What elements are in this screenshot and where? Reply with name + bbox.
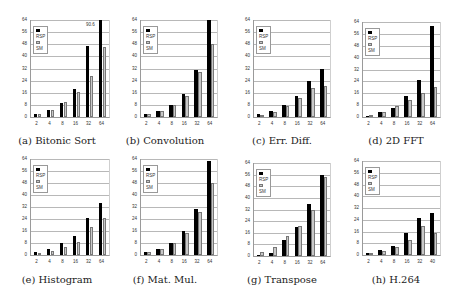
y-tick-label: 32 (236, 207, 250, 212)
legend-entry-sm: SM (36, 179, 45, 191)
gridline (31, 81, 109, 82)
sm-bar (160, 111, 164, 117)
gridline (254, 105, 330, 106)
gridline (363, 232, 440, 233)
y-tick-label: 48 (123, 41, 137, 46)
legend: RSPSM (365, 28, 380, 56)
gridline (363, 93, 440, 94)
legend-entry-rsp: RSP (368, 169, 377, 181)
x-tick-label: 2 (30, 121, 44, 126)
y-tick-label: 56 (123, 168, 137, 173)
sm-swatch-icon (36, 180, 40, 183)
sm-bar (211, 183, 215, 255)
y-tick-label: 48 (123, 180, 137, 185)
y-tick-label: 32 (13, 66, 27, 71)
sm-bar (185, 233, 189, 256)
y-tick-label: 40 (345, 55, 359, 60)
y-tick-label: 24 (13, 78, 27, 83)
y-tick-label: 0 (345, 114, 359, 119)
y-tick-label: 64 (236, 17, 250, 22)
chart-caption: (h) H.264 (336, 274, 456, 285)
y-tick-label: 48 (345, 182, 359, 187)
chart-caption: (b) Convolution (105, 135, 225, 146)
sm-bar (382, 251, 386, 255)
sm-bar (211, 44, 215, 117)
sm-bar (90, 76, 94, 117)
y-tick-label: 56 (123, 29, 137, 34)
y-tick-label: 48 (236, 183, 250, 188)
y-tick-label: 64 (123, 156, 137, 161)
legend: RSPSM (365, 167, 380, 195)
y-tick-label: 24 (345, 78, 359, 83)
sm-bar (147, 114, 151, 117)
legend-label-rsp: RSP (259, 34, 268, 39)
y-tick-label: 32 (123, 204, 137, 209)
sm-bar (185, 96, 189, 117)
sm-bar (395, 106, 399, 117)
chart-caption: (d) 2D FFT (336, 135, 456, 146)
sm-swatch-icon (36, 41, 40, 44)
sm-bar (103, 47, 107, 117)
gridline (363, 70, 440, 71)
sm-bar (260, 252, 264, 256)
sm-swatch-icon (259, 41, 263, 44)
sm-bar (298, 98, 302, 117)
gridline (31, 69, 109, 70)
legend-entry-rsp: RSP (368, 30, 377, 42)
gridline (363, 105, 440, 106)
x-tick-label: 64 (426, 121, 440, 126)
y-tick-label: 32 (345, 67, 359, 72)
legend-entry-sm: SM (259, 183, 268, 195)
gridline (141, 56, 217, 57)
sm-bar (298, 226, 302, 256)
gridline (31, 219, 109, 220)
y-tick-label: 48 (345, 43, 359, 48)
sm-bar (64, 102, 68, 117)
sm-bar (38, 253, 42, 255)
gridline (254, 20, 330, 21)
legend-label-sm: SM (146, 46, 153, 51)
legend-label-sm: SM (259, 46, 266, 51)
rsp-swatch-icon (146, 29, 150, 32)
sm-bar (198, 72, 202, 117)
y-tick-label: 8 (123, 102, 137, 107)
sm-bar (260, 115, 264, 117)
gridline (363, 58, 440, 59)
y-tick-label: 64 (236, 160, 250, 165)
legend-label-sm: SM (259, 189, 266, 194)
x-tick-label: 64 (203, 121, 217, 126)
sm-bar (90, 227, 94, 256)
sm-bar (273, 247, 277, 256)
sm-bar (382, 112, 386, 117)
sm-bar (273, 112, 277, 117)
y-tick-label: 8 (345, 240, 359, 245)
gridline (254, 93, 330, 94)
y-tick-label: 0 (345, 252, 359, 257)
gridline (141, 81, 217, 82)
gridline (31, 56, 109, 57)
sm-bar (173, 105, 177, 117)
y-tick-label: 24 (345, 217, 359, 222)
y-tick-label: 56 (345, 31, 359, 36)
sm-bar (369, 253, 373, 255)
legend: RSPSM (33, 165, 48, 193)
gridline (31, 93, 109, 94)
y-tick-label: 8 (236, 241, 250, 246)
y-tick-label: 48 (236, 41, 250, 46)
y-tick-label: 64 (13, 17, 27, 22)
gridline (141, 231, 217, 232)
sm-bar (408, 240, 412, 255)
sm-bar (51, 110, 55, 117)
x-tick-label: 8 (56, 121, 70, 126)
gridline (254, 244, 330, 245)
legend: RSPSM (143, 165, 158, 193)
legend: RSPSM (143, 26, 158, 54)
gridline (31, 105, 109, 106)
y-tick-label: 40 (123, 192, 137, 197)
sm-bar (421, 93, 425, 117)
sm-bar (160, 249, 164, 255)
legend-label-rsp: RSP (368, 175, 377, 180)
x-tick-label: 4 (43, 259, 57, 264)
legend-entry-rsp: RSP (36, 28, 45, 40)
y-tick-label: 56 (236, 172, 250, 177)
